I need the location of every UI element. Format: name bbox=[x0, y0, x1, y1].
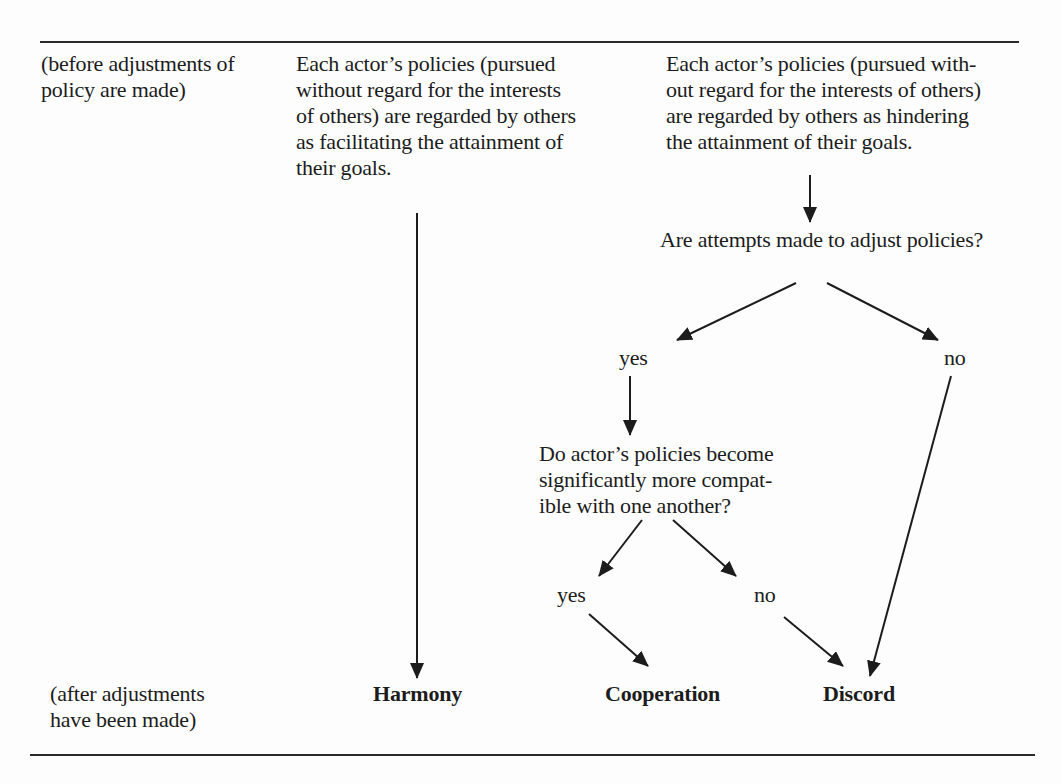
flow-arrows bbox=[0, 0, 1061, 784]
arrow-q1-yes bbox=[677, 283, 796, 340]
arrow-no-to-discord-2 bbox=[784, 617, 843, 666]
arrow-q2-yes bbox=[599, 520, 642, 576]
arrow-no-to-discord bbox=[870, 376, 951, 676]
arrow-yes-to-cooperation bbox=[589, 614, 648, 666]
diagram-page: (before adjustments of policy are made) … bbox=[0, 0, 1061, 784]
arrow-q2-no bbox=[673, 520, 736, 576]
arrow-q1-no bbox=[827, 283, 938, 340]
